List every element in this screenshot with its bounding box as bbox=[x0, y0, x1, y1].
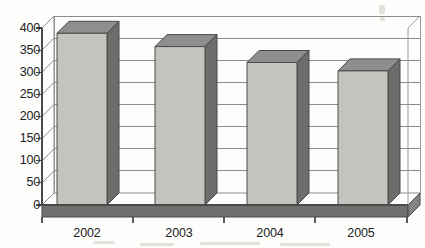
bar-side-face bbox=[388, 59, 400, 205]
left-wall bbox=[42, 16, 54, 205]
y-tick-400: 400 bbox=[4, 22, 40, 34]
x-tick-2005: 2005 bbox=[331, 226, 391, 240]
x-tick-2004: 2004 bbox=[240, 226, 300, 240]
bar-front-face bbox=[338, 71, 388, 205]
floor-front-face bbox=[42, 205, 408, 217]
right-wall bbox=[408, 16, 420, 205]
bar-front-face bbox=[57, 33, 107, 205]
y-tick-250: 250 bbox=[4, 88, 40, 100]
y-tick-300: 300 bbox=[4, 66, 40, 78]
bar-2003[interactable] bbox=[155, 35, 217, 205]
y-tick-100: 100 bbox=[4, 154, 40, 166]
bar-2005[interactable] bbox=[338, 59, 400, 205]
plot-area: 400 350 300 250 200 150 100 50 0 2002 20… bbox=[0, 0, 425, 248]
y-tick-50: 50 bbox=[4, 176, 40, 188]
bar-chart-3d: 400 350 300 250 200 150 100 50 0 2002 20… bbox=[0, 0, 425, 248]
chart-canvas bbox=[0, 0, 425, 248]
y-axis-tick-labels: 400 350 300 250 200 150 100 50 0 bbox=[0, 0, 40, 248]
x-tick-2002: 2002 bbox=[57, 226, 117, 240]
y-tick-150: 150 bbox=[4, 132, 40, 144]
bar-side-face bbox=[107, 21, 119, 205]
y-tick-0: 0 bbox=[4, 199, 40, 211]
bar-side-face bbox=[205, 35, 217, 205]
bar-2002[interactable] bbox=[57, 21, 119, 205]
y-tick-350: 350 bbox=[4, 44, 40, 56]
bar-side-face bbox=[297, 51, 309, 206]
x-tick-2003: 2003 bbox=[149, 226, 209, 240]
bar-2004[interactable] bbox=[247, 51, 309, 206]
x-axis-ticks bbox=[42, 217, 407, 223]
y-tick-200: 200 bbox=[4, 110, 40, 122]
bar-front-face bbox=[247, 63, 297, 206]
bar-front-face bbox=[155, 47, 205, 205]
